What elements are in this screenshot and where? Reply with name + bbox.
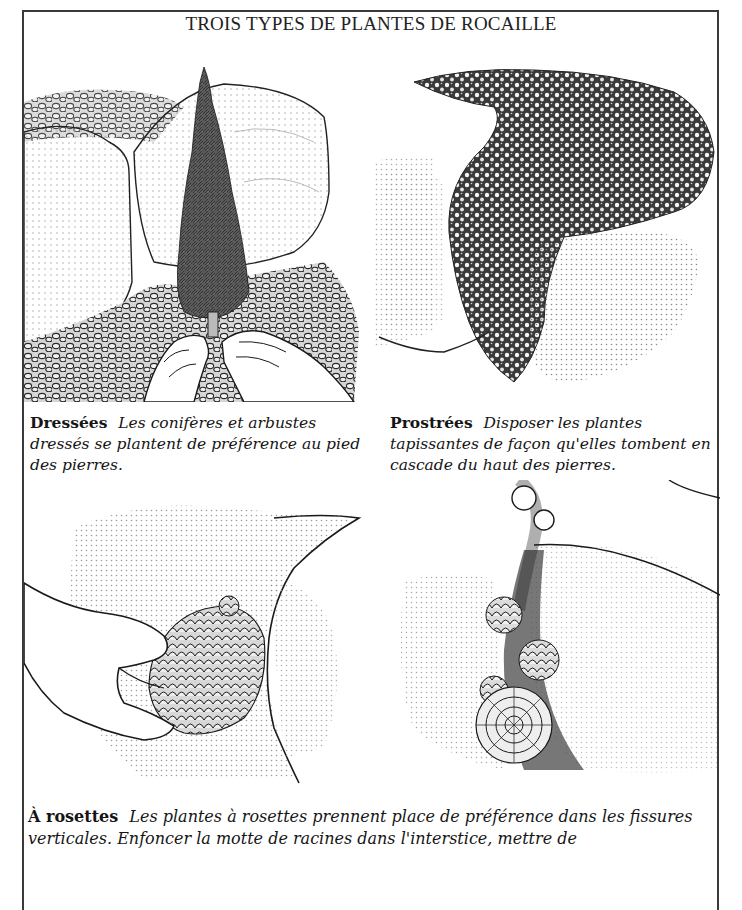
- figure-title: TROIS TYPES DE PLANTES DE ROCAILLE: [0, 13, 742, 35]
- illustration-dressees: [24, 62, 374, 402]
- illustration-rosettes-hand: [24, 488, 384, 788]
- caption-dressees-lead: Dressées: [30, 413, 107, 432]
- caption-prostrees: Prostrées Disposer les plantes tapissant…: [390, 412, 720, 476]
- caption-prostrees-lead: Prostrées: [390, 413, 473, 432]
- caption-rosettes-lead: À rosettes: [28, 807, 118, 826]
- caption-rosettes: À rosettes Les plantes à rosettes prenne…: [28, 806, 728, 850]
- caption-rosettes-body: Les plantes à rosettes prennent place de…: [28, 807, 693, 848]
- illustration-prostrees: [374, 62, 718, 400]
- caption-dressees: Dressées Les conifères et arbustes dress…: [30, 412, 370, 476]
- illustration-rosettes-fissure: [384, 480, 720, 780]
